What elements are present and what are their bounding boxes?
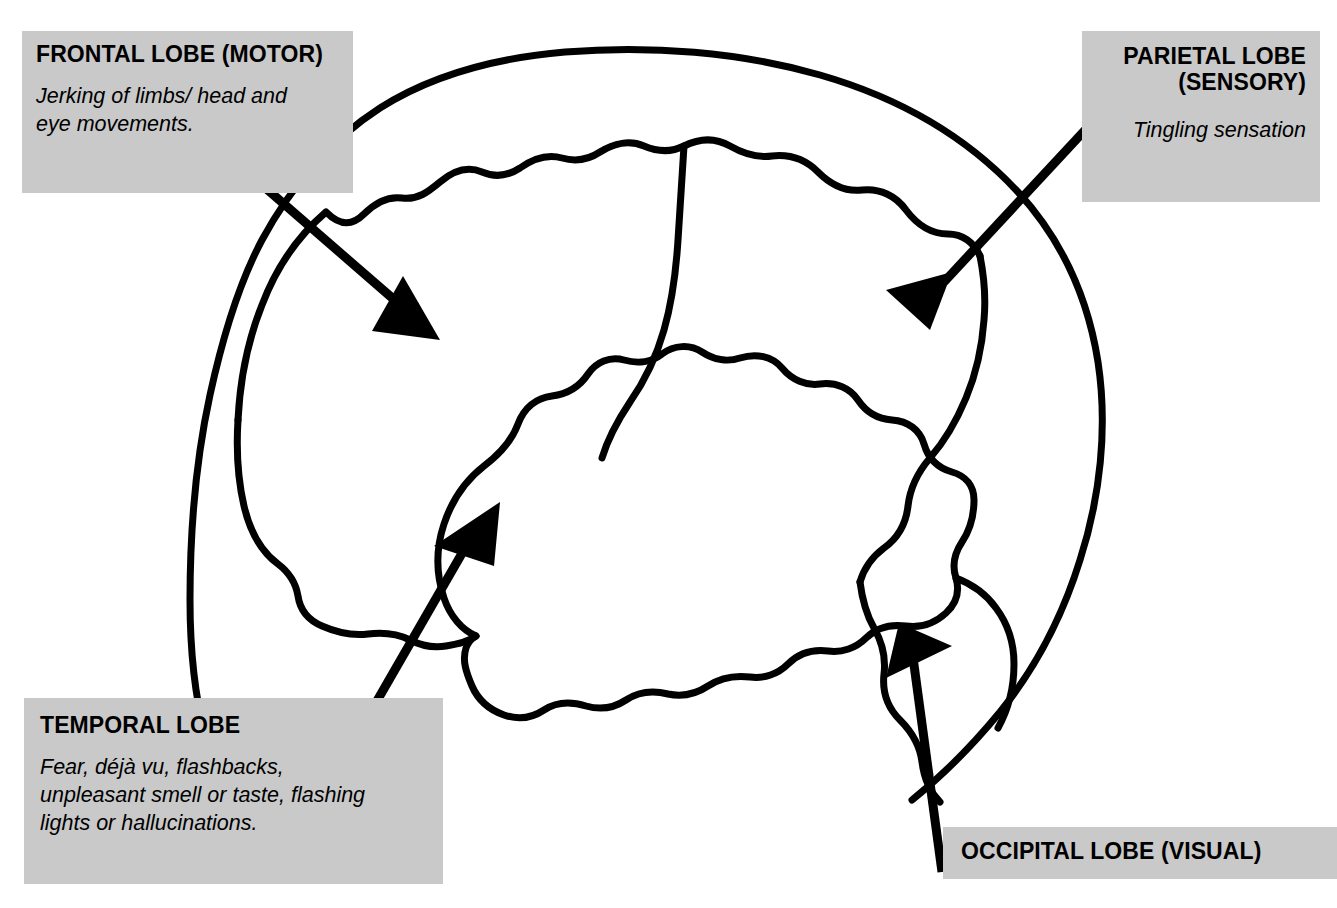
callout-temporal-body-line3: lights or hallucinations.: [40, 810, 429, 838]
callout-temporal-body-line2: unpleasant smell or taste, flashing: [40, 782, 429, 810]
callout-parietal-title: PARIETAL LOBE (SENSORY): [1094, 43, 1306, 95]
brain-lobes-diagram: FRONTAL LOBE (MOTOR) Jerking of limbs/ h…: [0, 0, 1337, 908]
callout-temporal-body-line1: Fear, déjà vu, flashbacks,: [40, 754, 429, 782]
callout-occipital-title: OCCIPITAL LOBE (VISUAL): [961, 838, 1323, 864]
callout-temporal-lobe: TEMPORAL LOBE Fear, déjà vu, flashbacks,…: [24, 698, 443, 884]
callout-parietal-lobe: PARIETAL LOBE (SENSORY) Tingling sensati…: [1082, 31, 1320, 202]
frontal-leader-line: [254, 178, 398, 303]
parietal-arrowhead: [886, 272, 952, 330]
callout-parietal-title-line1: PARIETAL LOBE: [1123, 43, 1306, 69]
callout-frontal-lobe: FRONTAL LOBE (MOTOR) Jerking of limbs/ h…: [22, 31, 353, 193]
callout-parietal-title-line2: (SENSORY): [1178, 69, 1306, 95]
callout-temporal-body: Fear, déjà vu, flashbacks, unpleasant sm…: [40, 754, 429, 838]
occipital-leader-line: [912, 650, 942, 872]
central-sulcus: [602, 146, 684, 458]
callout-occipital-lobe: OCCIPITAL LOBE (VISUAL): [943, 827, 1337, 879]
callout-frontal-body: Jerking of limbs/ head and eye movements…: [36, 83, 339, 139]
callout-frontal-body-line2: eye movements.: [36, 111, 339, 139]
callout-parietal-body-line1: Tingling sensation: [1094, 117, 1306, 145]
callout-temporal-title: TEMPORAL LOBE: [40, 712, 429, 738]
callout-frontal-title: FRONTAL LOBE (MOTOR): [36, 41, 339, 67]
occipital-inferior-edge: [956, 578, 1014, 728]
callout-parietal-body: Tingling sensation: [1094, 117, 1306, 145]
callout-frontal-body-line1: Jerking of limbs/ head and: [36, 83, 339, 111]
